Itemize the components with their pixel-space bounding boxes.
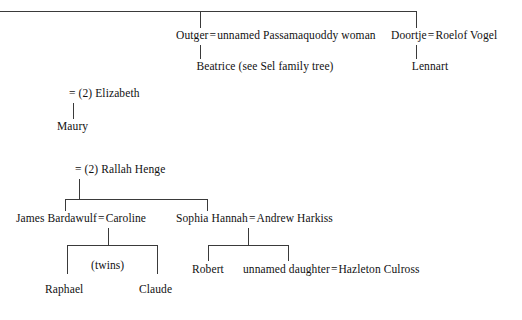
marriage-rallah-henge: = (2) Rallah Henge <box>75 163 165 176</box>
person-unnamed-daughter: unnamed daughter <box>243 263 330 275</box>
person-doortje: Doortje <box>391 29 427 41</box>
stem-from-james-couple <box>108 228 109 245</box>
person-passamaquoddy-woman: unnamed Passamaquoddy woman <box>217 29 376 41</box>
person-robert: Robert <box>192 263 224 276</box>
marriage-symbol: = <box>97 212 106 224</box>
person-hazleton-culross: Hazleton Culross <box>338 263 419 275</box>
person-caroline: Caroline <box>106 212 146 224</box>
stem-to-lennart <box>416 45 417 59</box>
stem-from-sophia-couple <box>248 228 249 245</box>
person-james-bardawulf: James Bardawulf <box>16 212 97 224</box>
stem-to-unnamed-daughter <box>288 245 289 261</box>
stem-to-claude <box>157 245 158 274</box>
person-lennart: Lennart <box>412 60 448 73</box>
family-tree-diagram: Outger=unnamed Passamaquoddy woman Doort… <box>0 0 522 320</box>
person-outger: Outger <box>176 29 209 41</box>
stem-from-rallah-henge <box>79 179 80 199</box>
stem-to-outger <box>200 11 201 28</box>
person-maury: Maury <box>57 120 88 133</box>
marriage-symbol: = <box>209 29 218 41</box>
couple-unnamed-daughter: unnamed daughter=Hazleton Culross <box>243 263 420 276</box>
stem-to-sophia-hannah <box>207 199 208 211</box>
couple-james-bardawulf: James Bardawulf=Caroline <box>16 212 146 225</box>
label-twins: (twins) <box>91 259 124 272</box>
stem-to-doortje <box>416 11 417 28</box>
person-claude: Claude <box>139 283 172 296</box>
marriage-elizabeth: = (2) Elizabeth <box>69 87 140 100</box>
couple-sophia-hannah: Sophia Hannah=Andrew Harkiss <box>176 212 333 225</box>
sibling-bar-twins <box>67 245 158 246</box>
person-beatrice: Beatrice (see Sel family tree) <box>196 60 333 73</box>
person-andrew-harkiss: Andrew Harkiss <box>256 212 332 224</box>
person-raphael: Raphael <box>45 283 83 296</box>
stem-to-raphael <box>67 245 68 274</box>
person-sophia-hannah: Sophia Hannah <box>176 212 248 224</box>
person-roelof-vogel: Roelof Vogel <box>435 29 497 41</box>
sibling-bar-harkiss-children <box>208 245 289 246</box>
stem-to-james-bardawulf <box>65 199 66 211</box>
stem-to-robert <box>208 245 209 261</box>
couple-doortje: Doortje=Roelof Vogel <box>391 29 497 42</box>
stem-to-maury <box>73 103 74 119</box>
couple-outger: Outger=unnamed Passamaquoddy woman <box>176 29 376 42</box>
sibling-bar-rallah-children <box>65 199 208 200</box>
top-sibling-bar <box>0 11 417 12</box>
stem-to-beatrice <box>200 45 201 59</box>
